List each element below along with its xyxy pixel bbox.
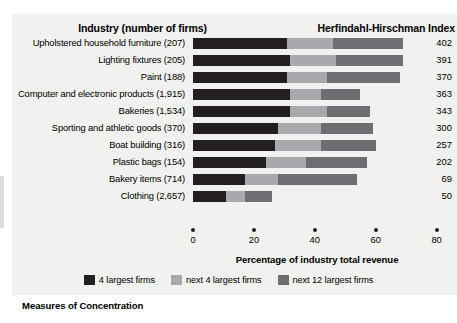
legend-swatch: [171, 275, 182, 285]
figure-caption: Measures of Concentration: [22, 300, 143, 311]
row-label: Plastic bags (154): [0, 155, 185, 169]
bar-segment: [278, 174, 357, 185]
table-row: Sporting and athletic goods (370)300: [0, 121, 457, 138]
table-row: Plastic bags (154)202: [0, 155, 457, 172]
bar-rows: Upholstered household furniture (207)402…: [0, 36, 457, 206]
bar-segment: [321, 89, 361, 100]
legend-item: 4 largest firms: [84, 275, 155, 285]
stacked-bar: [193, 157, 367, 168]
header-hhi: Herfindahl-Hirschman Index: [280, 22, 455, 34]
bar-segment: [193, 174, 245, 185]
table-row: Clothing (2,657)50: [0, 189, 457, 206]
hhi-value: 257: [408, 138, 452, 152]
stacked-bar: [193, 55, 403, 66]
tick-dot-icon: [252, 228, 256, 232]
table-row: Upholstered household furniture (207)402: [0, 36, 457, 53]
row-label: Boat building (316): [0, 138, 185, 152]
chart-area: Industry (number of firms) Herfindahl-Hi…: [0, 0, 457, 323]
table-row: Lighting fixtures (205)391: [0, 53, 457, 70]
hhi-value: 391: [408, 53, 452, 67]
row-label: Upholstered household furniture (207): [0, 36, 185, 50]
bar-segment: [278, 123, 321, 134]
stacked-bar: [193, 89, 360, 100]
tick-dot-icon: [374, 228, 378, 232]
x-axis-tick: 80: [429, 228, 445, 245]
table-row: Bakeries (1,534)343: [0, 104, 457, 121]
tick-dot-icon: [435, 228, 439, 232]
x-axis-tick-label: 60: [368, 235, 384, 245]
table-row: Paint (188)370: [0, 70, 457, 87]
figure-measures-of-concentration: Industry (number of firms) Herfindahl-Hi…: [0, 0, 457, 323]
x-axis-tick: 0: [185, 228, 201, 245]
bar-segment: [193, 157, 266, 168]
hhi-value: 370: [408, 70, 452, 84]
bar-segment: [333, 38, 403, 49]
stacked-bar: [193, 72, 400, 83]
bar-segment: [321, 123, 373, 134]
x-axis-tick-label: 40: [307, 235, 323, 245]
bar-segment: [193, 191, 226, 202]
legend-item: next 12 largest firms: [278, 275, 374, 285]
row-label: Sporting and athletic goods (370): [0, 121, 185, 135]
stacked-bar: [193, 191, 272, 202]
bar-segment: [287, 72, 327, 83]
legend-item: next 4 largest firms: [171, 275, 262, 285]
x-axis-tick: 20: [246, 228, 262, 245]
bar-segment: [290, 89, 320, 100]
legend-swatch: [84, 275, 95, 285]
x-axis-tick: 40: [307, 228, 323, 245]
hhi-value: 363: [408, 87, 452, 101]
stacked-bar: [193, 174, 357, 185]
x-axis-title: Percentage of industry total revenue: [193, 254, 441, 265]
hhi-value: 50: [408, 189, 452, 203]
bar-segment: [245, 191, 272, 202]
bar-segment: [287, 38, 333, 49]
bar-segment: [193, 89, 290, 100]
row-label: Lighting fixtures (205): [0, 53, 185, 67]
row-label: Bakeries (1,534): [0, 104, 185, 118]
legend-label: 4 largest firms: [99, 275, 155, 285]
x-axis-tick-label: 20: [246, 235, 262, 245]
legend-swatch: [278, 275, 289, 285]
bar-segment: [245, 174, 278, 185]
bar-segment: [193, 38, 287, 49]
bar-segment: [193, 140, 275, 151]
bar-segment: [193, 123, 278, 134]
bar-segment: [290, 55, 336, 66]
legend-label: next 4 largest firms: [186, 275, 262, 285]
table-row: Computer and electronic products (1,915)…: [0, 87, 457, 104]
bar-segment: [193, 106, 290, 117]
row-label: Bakery items (714): [0, 172, 185, 186]
bar-segment: [336, 55, 403, 66]
stacked-bar: [193, 106, 370, 117]
hhi-value: 402: [408, 36, 452, 50]
bar-segment: [193, 72, 287, 83]
x-axis-tick: 60: [368, 228, 384, 245]
bar-segment: [275, 140, 321, 151]
header-industry: Industry (number of firms): [0, 22, 285, 34]
hhi-value: 343: [408, 104, 452, 118]
hhi-value: 69: [408, 172, 452, 186]
x-axis-tick-label: 80: [429, 235, 445, 245]
bar-segment: [290, 106, 327, 117]
hhi-value: 300: [408, 121, 452, 135]
tick-dot-icon: [313, 228, 317, 232]
bar-segment: [321, 140, 376, 151]
chart-legend: 4 largest firmsnext 4 largest firmsnext …: [0, 275, 457, 285]
stacked-bar: [193, 123, 373, 134]
bar-segment: [266, 157, 306, 168]
bar-segment: [327, 72, 400, 83]
row-label: Paint (188): [0, 70, 185, 84]
bar-segment: [226, 191, 244, 202]
stacked-bar: [193, 38, 403, 49]
stacked-bar: [193, 140, 376, 151]
bar-segment: [306, 157, 367, 168]
hhi-value: 202: [408, 155, 452, 169]
bar-segment: [193, 55, 290, 66]
legend-label: next 12 largest firms: [293, 275, 374, 285]
row-label: Clothing (2,657): [0, 189, 185, 203]
table-row: Bakery items (714)69: [0, 172, 457, 189]
tick-dot-icon: [191, 228, 195, 232]
x-axis-tick-label: 0: [185, 235, 201, 245]
bar-segment: [327, 106, 370, 117]
